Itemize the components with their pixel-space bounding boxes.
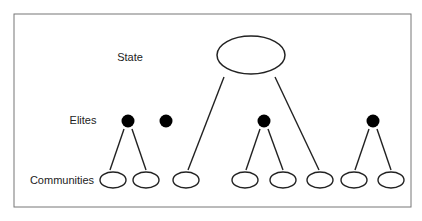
- community-nodes: [100, 172, 404, 188]
- edges: [110, 77, 391, 170]
- state-node: [217, 36, 285, 74]
- label-state: State: [117, 51, 143, 63]
- elite-nodes: [122, 115, 380, 128]
- edge-elite-3-community-5: [268, 129, 283, 170]
- elite-node-1: [122, 115, 135, 128]
- edge-state-community-3: [188, 77, 224, 170]
- community-node-6: [307, 172, 333, 188]
- edge-elite-1-community-2: [132, 129, 146, 170]
- elite-node-2: [160, 115, 173, 128]
- edge-elite-4-community-8: [377, 129, 391, 170]
- hierarchy-diagram: State Elites Communities: [0, 0, 422, 221]
- edge-elite-4-community-7: [355, 129, 369, 170]
- edge-elite-3-community-4: [246, 129, 260, 170]
- community-node-2: [133, 172, 159, 188]
- community-node-1: [100, 172, 126, 188]
- edge-state-community-6: [275, 77, 319, 170]
- community-node-8: [378, 172, 404, 188]
- label-communities: Communities: [30, 174, 95, 186]
- community-node-3: [173, 172, 199, 188]
- community-node-7: [341, 172, 367, 188]
- edge-elite-1-community-1: [110, 129, 124, 170]
- community-node-5: [270, 172, 296, 188]
- community-node-4: [232, 172, 258, 188]
- elite-node-3: [258, 115, 271, 128]
- label-elites: Elites: [70, 114, 97, 126]
- elite-node-4: [367, 115, 380, 128]
